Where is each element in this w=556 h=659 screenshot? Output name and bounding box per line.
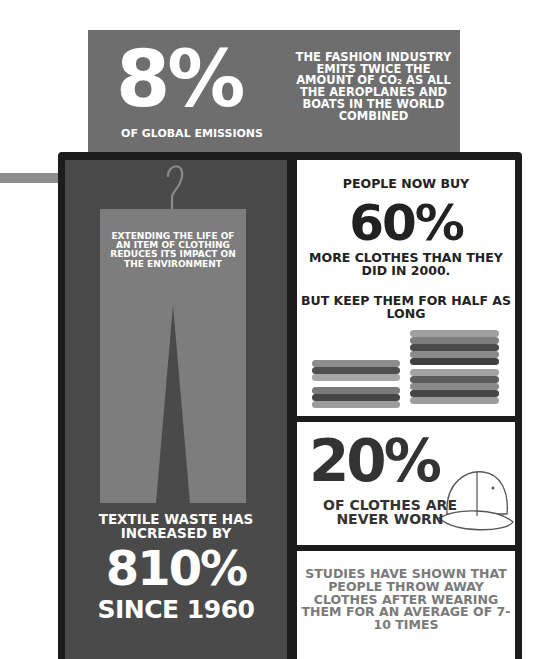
- hanger-icon: [158, 160, 188, 212]
- buying-stat: 60%: [297, 198, 515, 248]
- trousers-leg-gap: [100, 305, 246, 503]
- studies-panel: STUDIES HAVE SHOWN THAT PEOPLE THROW AWA…: [297, 551, 515, 659]
- studies-text: STUDIES HAVE SHOWN THAT PEOPLE THROW AWA…: [297, 568, 515, 632]
- unworn-panel: 20% OF CLOTHES ARE NEVER WORN: [297, 422, 515, 545]
- buying-intro: PEOPLE NOW BUY: [297, 178, 515, 191]
- emissions-label: OF GLOBAL EMISSIONS: [102, 128, 282, 139]
- buying-middle: MORE CLOTHES THAN THEY DID IN 2000.: [297, 252, 515, 278]
- folded-clothes-icon: [410, 369, 499, 404]
- waste-stat: 810%: [70, 544, 282, 592]
- trousers-caption: EXTENDING THE LIFE OF AN ITEM OF CLOTHIN…: [108, 232, 238, 269]
- emissions-description: THE FASHION INDUSTRY EMITS TWICE THE AMO…: [291, 52, 456, 122]
- emissions-stat: 8%: [116, 40, 242, 118]
- waste-since: SINCE 1960: [70, 597, 282, 623]
- folded-clothes-icon: [312, 360, 400, 381]
- unworn-stat: 20%: [309, 432, 439, 490]
- buying-panel: PEOPLE NOW BUY 60% MORE CLOTHES THAN THE…: [297, 160, 515, 416]
- folded-clothes-icon: [312, 387, 400, 408]
- buying-lower: BUT KEEP THEM FOR HALF AS LONG: [297, 295, 515, 321]
- waste-intro: TEXTILE WASTE HAS INCREASED BY: [70, 513, 282, 541]
- emissions-banner: 8% OF GLOBAL EMISSIONS THE FASHION INDUS…: [88, 30, 460, 156]
- unworn-text: OF CLOTHES ARE NEVER WORN: [305, 498, 475, 527]
- decorative-bar: [0, 173, 60, 183]
- folded-clothes-icon: [410, 330, 499, 365]
